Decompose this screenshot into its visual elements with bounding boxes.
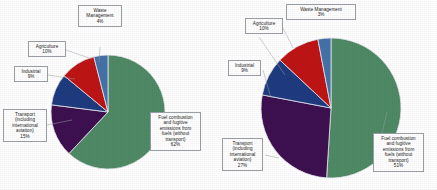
callout-label-line: Management xyxy=(81,13,119,19)
callout-fuel-left: Fuel combustion and fugitive emissions f… xyxy=(150,112,201,151)
callout-industrial-left: Industrial 9% xyxy=(14,66,48,82)
callout-percent: 51% xyxy=(376,163,421,169)
callout-industrial-right: Industrial 9% xyxy=(228,60,261,76)
callout-percent: 10% xyxy=(31,49,63,55)
leader-line xyxy=(265,155,279,158)
callout-waste-right: Waste Management 3% xyxy=(286,4,356,20)
callout-percent: 3% xyxy=(289,12,353,18)
callout-agriculture-left: Agriculture 10% xyxy=(28,41,66,57)
callout-percent: 9% xyxy=(231,68,258,74)
callout-transport-right: Transport (including international aviat… xyxy=(222,138,263,171)
leader-line xyxy=(259,37,285,75)
left-pie-svg xyxy=(0,0,219,190)
callout-waste-left: Waste Management 4% xyxy=(78,5,122,27)
left-chart-panel: Waste Management 4% Agriculture 10% Indu… xyxy=(0,0,219,190)
callout-fuel-right: Fuel combustion and fugitive emissions f… xyxy=(373,133,424,172)
callout-percent: 15% xyxy=(6,134,44,140)
callout-percent: 27% xyxy=(225,163,260,169)
callout-percent: 62% xyxy=(153,142,198,148)
callout-agriculture-right: Agriculture 10% xyxy=(245,18,283,34)
pie-charts-figure: Waste Management 4% Agriculture 10% Indu… xyxy=(0,0,437,190)
leader-line xyxy=(66,50,92,59)
leader-line xyxy=(283,28,293,48)
left-pie-slices xyxy=(51,55,165,169)
pie-slice xyxy=(261,95,331,178)
callout-percent: 10% xyxy=(248,26,280,32)
callout-transport-left: Transport (including international aviat… xyxy=(3,109,47,142)
callout-percent: 9% xyxy=(17,74,45,80)
callout-percent: 4% xyxy=(81,19,119,25)
